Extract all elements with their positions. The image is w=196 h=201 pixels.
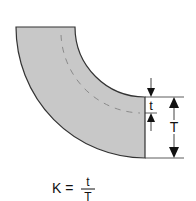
formula-lhs: K = [52,180,73,196]
T-arrow-top-head [169,97,179,108]
formula-denominator: T [84,190,92,201]
k-factor-diagram: t T K = t T [0,0,196,201]
t-arrow-top-head [147,88,155,97]
T-label: T [170,119,179,135]
formula-numerator: t [86,175,90,189]
T-arrow-bottom-head [169,147,179,158]
bent-sheet-shape [16,27,145,158]
t-label: t [149,98,153,113]
t-arrow-bottom-head [147,113,155,122]
